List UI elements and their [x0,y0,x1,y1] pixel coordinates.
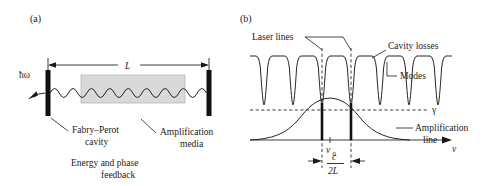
fabry-perot-leader [51,118,68,131]
gamma-label: γ [431,105,436,115]
photon-energy-label: ħω [19,70,30,80]
cavity-length-label: L [124,61,130,71]
figure-svg: (a) L ħω Fabry–Perot cavity Am [0,0,492,186]
amplification-media-label-line1: Amplification [160,127,214,137]
modes-leader [387,62,397,76]
amplification-line-label-line1: Amplification [415,123,469,133]
panel-a: (a) L ħω Fabry–Perot cavity Am [19,13,214,180]
laser-lines-label: Laser lines [252,32,294,42]
frequency-axis-label: ν [452,144,457,154]
right-mirror [207,70,212,116]
amplification-media-label-line2: media [180,139,204,149]
left-mirror [46,70,51,116]
fabry-perot-label-line2: cavity [85,137,108,147]
output-photon-arrow [28,91,45,99]
amplification-line-label-line2: line [423,135,437,145]
cavity-losses-label: Cavity losses [388,41,439,51]
mode-spacing-numerator: c [332,152,337,162]
modes-label: Modes [400,71,426,81]
fabry-perot-label-line1: Fabry–Perot [72,125,119,135]
panel-a-label: (a) [30,13,41,25]
laser-lines-leaders [305,37,351,50]
panel-b-label: (b) [240,13,252,25]
mode-spacing-denominator: 2L [328,166,338,176]
mode-spacing-dimension: c 2L [308,152,365,176]
cavity-losses-leader [372,50,386,58]
panel-b: (b) γ ν ν 0 Laser lines [240,13,469,176]
feedback-caption-line1: Energy and phase [71,158,138,168]
amplification-media-block [81,75,185,103]
nu0-label: ν [326,145,331,155]
feedback-caption-line2: feedback [101,170,136,180]
amplification-line-curve [250,98,410,140]
cavity-length-dimension: L [48,58,209,74]
figure-laser-cavity: (a) L ħω Fabry–Perot cavity Am [0,0,492,186]
amplification-media-leader [141,119,156,133]
